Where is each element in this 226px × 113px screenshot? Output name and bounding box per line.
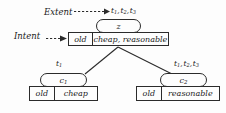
tag-t2-c2: t2	[183, 59, 189, 68]
c2-intent-right-cell: reasonable	[162, 87, 219, 100]
intent-arrow-icon	[46, 36, 67, 42]
root-extent-tag: t1, t2, t3	[111, 6, 136, 15]
edge-root-to-c2	[118, 47, 172, 74]
c1-concept-node[interactable]: c1	[40, 73, 87, 87]
tag-t3: t3	[130, 6, 136, 15]
root-intent-row[interactable]: old cheap, reasonable	[68, 32, 169, 46]
c2-concept-label: c2	[180, 76, 188, 85]
c1-intent-right-cell: cheap	[55, 87, 97, 100]
c1-intent-left-cell: old	[30, 87, 55, 100]
tag-t1-c2: t1	[174, 59, 180, 68]
c2-intent-left-cell: old	[137, 87, 162, 100]
c1-extent-tag: t1	[56, 59, 62, 68]
c2-concept-node[interactable]: c2	[160, 73, 207, 87]
edge-root-to-c1	[85, 47, 118, 74]
root-intent-left-cell: old	[69, 33, 93, 45]
c1-concept-label: c1	[60, 76, 68, 85]
tag-t2: t2	[120, 6, 126, 15]
extent-arrow-icon	[74, 9, 110, 15]
c2-extent-tag: t1, t2, t3	[174, 59, 199, 68]
diagram-canvas: Extent Intent t1, t2, t3 z old cheap, re…	[0, 0, 226, 113]
root-intent-right-cell: cheap, reasonable	[93, 33, 168, 45]
root-concept-label: z	[116, 22, 120, 31]
intent-annotation-label: Intent	[14, 31, 40, 41]
tag-t1-c1: t1	[56, 59, 62, 68]
tag-t1: t1	[111, 6, 117, 15]
root-concept-node[interactable]: z	[96, 19, 141, 33]
tag-t3-c2: t3	[193, 59, 199, 68]
extent-annotation-label: Extent	[44, 7, 72, 17]
c2-intent-row[interactable]: old reasonable	[136, 86, 220, 101]
c1-intent-row[interactable]: old cheap	[29, 86, 98, 101]
